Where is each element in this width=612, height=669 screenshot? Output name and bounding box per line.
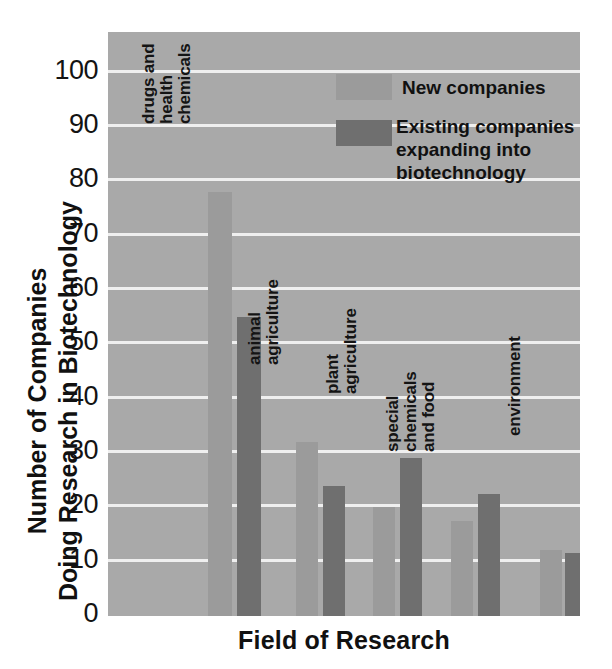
bar-new-environment[interactable] (540, 550, 562, 616)
category-label-line: plant (324, 308, 342, 394)
category-label-line: agriculture (342, 308, 360, 394)
legend-label-new-companies: New companies (402, 76, 546, 99)
y-axis-title-line1: Number of Companies (22, 166, 53, 636)
legend-label-line: biotechnology (396, 161, 574, 184)
category-label-line: and food (420, 372, 438, 452)
legend-label-existing-companies: Existing companies expanding into biotec… (396, 115, 574, 184)
bar-new-special-chemicals-and-food[interactable] (451, 521, 473, 616)
legend-swatch-existing-companies (336, 120, 392, 146)
bar-new-drugs-and-health-chemicals[interactable] (208, 192, 232, 616)
category-label-environment: environment (506, 336, 524, 436)
category-label-line: environment (506, 336, 524, 436)
bar-existing-plant-agriculture[interactable] (400, 458, 422, 616)
category-label-line: health (158, 44, 176, 124)
bar-existing-special-chemicals-and-food[interactable] (478, 494, 500, 616)
bar-new-plant-agriculture[interactable] (373, 507, 395, 616)
bar-existing-animal-agriculture[interactable] (323, 486, 345, 616)
x-axis-title: Field of Research (108, 626, 580, 655)
category-label-plant-agriculture: plant agriculture (324, 308, 360, 394)
category-label-special-chemicals-and-food: special chemicals and food (384, 372, 438, 452)
category-label-drugs-and-health-chemicals: drugs and health chemicals (140, 44, 194, 124)
bar-chart-figure: 100 90 80 70 60 50 40 30 20 10 0 Number … (0, 0, 612, 669)
category-label-line: drugs and (140, 44, 158, 124)
legend-label-line: expanding into (396, 138, 574, 161)
category-label-line: chemicals (402, 372, 420, 452)
bar-new-animal-agriculture[interactable] (296, 442, 318, 616)
category-label-line: agriculture (264, 279, 282, 365)
category-label-line: animal (246, 279, 264, 365)
legend-swatch-new-companies (336, 74, 392, 100)
y-tick-0: 0 (83, 598, 98, 629)
y-axis-title: Number of Companies Doing Research in Bi… (22, 166, 84, 636)
y-tick-100: 100 (54, 55, 98, 86)
category-label-line: special (384, 372, 402, 452)
category-label-animal-agriculture: animal agriculture (246, 279, 282, 365)
y-axis-title-line2: Doing Research in Biotechnology (53, 166, 84, 636)
bar-existing-environment[interactable] (565, 553, 580, 616)
plot-area: drugs and health chemicals animal agricu… (108, 32, 580, 616)
y-tick-90: 90 (69, 109, 98, 140)
category-label-line: chemicals (176, 44, 194, 124)
legend-label-line: Existing companies (396, 115, 574, 138)
